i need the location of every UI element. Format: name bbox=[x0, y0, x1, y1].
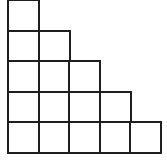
grid-square bbox=[7, 30, 40, 63]
grid-square bbox=[38, 30, 71, 63]
grid-square bbox=[68, 121, 101, 154]
grid-square bbox=[7, 121, 40, 154]
grid-square bbox=[129, 121, 162, 154]
grid-square bbox=[38, 60, 71, 93]
grid-square bbox=[68, 91, 101, 124]
grid-square bbox=[7, 91, 40, 124]
grid-square bbox=[7, 60, 40, 93]
grid-square bbox=[38, 121, 71, 154]
grid-square bbox=[68, 60, 101, 93]
grid-square bbox=[38, 91, 71, 124]
grid-square bbox=[99, 121, 132, 154]
grid-square bbox=[7, 0, 40, 32]
staircase-diagram bbox=[0, 0, 167, 168]
grid-square bbox=[99, 91, 132, 124]
